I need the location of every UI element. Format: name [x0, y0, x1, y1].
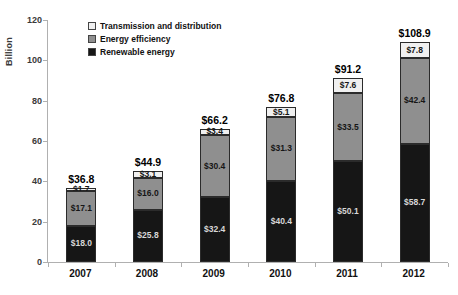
y-tick-label: 0	[0, 256, 42, 268]
x-axis-label: 2009	[180, 268, 247, 279]
segment-label: $32.4	[204, 225, 225, 234]
x-axis-label: 2011	[314, 268, 381, 279]
segment-transmission-and-distribution: $7.8	[400, 42, 430, 58]
segment-label: $18.0	[71, 239, 92, 248]
y-tick-mark	[43, 222, 47, 223]
x-axis-label: 2012	[380, 268, 447, 279]
x-axis-label: 2010	[247, 268, 314, 279]
segment-energy-efficiency: $33.5	[333, 93, 363, 161]
segment-energy-efficiency: $30.4	[200, 135, 230, 196]
segment-label: $31.3	[271, 144, 292, 153]
x-tick-mark	[115, 263, 116, 267]
segment-label: $7.8	[406, 46, 423, 55]
segment-renewable-energy: $25.8	[133, 210, 163, 262]
segment-label: $50.1	[337, 207, 358, 216]
segment-energy-efficiency: $17.1	[66, 191, 96, 225]
y-tick-label: 60	[0, 135, 42, 147]
segment-renewable-energy: $18.0	[66, 226, 96, 262]
x-tick-mark	[448, 263, 449, 267]
total-label: $44.9	[118, 156, 178, 168]
y-tick-mark	[43, 20, 47, 21]
total-label: $91.2	[318, 63, 378, 75]
bar-2010: $40.4$31.3$5.1	[266, 107, 296, 262]
segment-label: $58.7	[404, 198, 425, 207]
segment-label: $30.4	[204, 162, 225, 171]
y-tick-mark	[43, 141, 47, 142]
plot-area: $18.0$17.1$1.7$36.8$25.8$16.0$3.1$44.9$3…	[47, 20, 448, 263]
x-tick-mark	[381, 263, 382, 267]
y-tick-label: 100	[0, 54, 42, 66]
total-label: $108.9	[385, 27, 445, 39]
y-tick-mark	[43, 262, 47, 263]
y-tick-mark	[43, 60, 47, 61]
bar-2011: $50.1$33.5$7.6	[333, 78, 363, 262]
total-label: $76.8	[251, 92, 311, 104]
y-tick-mark	[43, 181, 47, 182]
y-tick-label: 120	[0, 14, 42, 26]
bar-2009: $32.4$30.4$3.4	[200, 129, 230, 262]
segment-label: $25.8	[137, 231, 158, 240]
segment-renewable-energy: $58.7	[400, 144, 430, 262]
segment-energy-efficiency: $31.3	[266, 117, 296, 180]
total-label: $66.2	[185, 114, 245, 126]
segment-energy-efficiency: $42.4	[400, 58, 430, 144]
segment-label: $40.4	[271, 217, 292, 226]
y-tick-label: 40	[0, 175, 42, 187]
x-axis-label: 2007	[47, 268, 114, 279]
x-tick-mark	[48, 263, 49, 267]
y-tick-mark	[43, 101, 47, 102]
segment-label: $17.1	[71, 204, 92, 213]
total-label: $36.8	[51, 173, 111, 185]
segment-transmission-and-distribution: $7.6	[333, 78, 363, 93]
segment-label: $7.6	[340, 81, 357, 90]
segment-transmission-and-distribution: $3.4	[200, 129, 230, 136]
segment-energy-efficiency: $16.0	[133, 178, 163, 210]
bar-2007: $18.0$17.1$1.7	[66, 188, 96, 262]
x-tick-mark	[315, 263, 316, 267]
segment-renewable-energy: $50.1	[333, 161, 363, 262]
segment-label: $33.5	[337, 123, 358, 132]
y-tick-label: 80	[0, 95, 42, 107]
bar-2012: $58.7$42.4$7.8	[400, 42, 430, 262]
chart: Billion Transmission and distributionEne…	[0, 0, 458, 295]
segment-label: $16.0	[137, 189, 158, 198]
segment-label: $42.4	[404, 96, 425, 105]
y-tick-label: 20	[0, 216, 42, 228]
bar-2008: $25.8$16.0$3.1	[133, 171, 163, 262]
segment-transmission-and-distribution: $5.1	[266, 107, 296, 117]
x-axis-label: 2008	[114, 268, 181, 279]
segment-label: $5.1	[273, 108, 290, 117]
segment-renewable-energy: $40.4	[266, 181, 296, 262]
segment-renewable-energy: $32.4	[200, 197, 230, 262]
x-tick-mark	[248, 263, 249, 267]
x-tick-mark	[181, 263, 182, 267]
